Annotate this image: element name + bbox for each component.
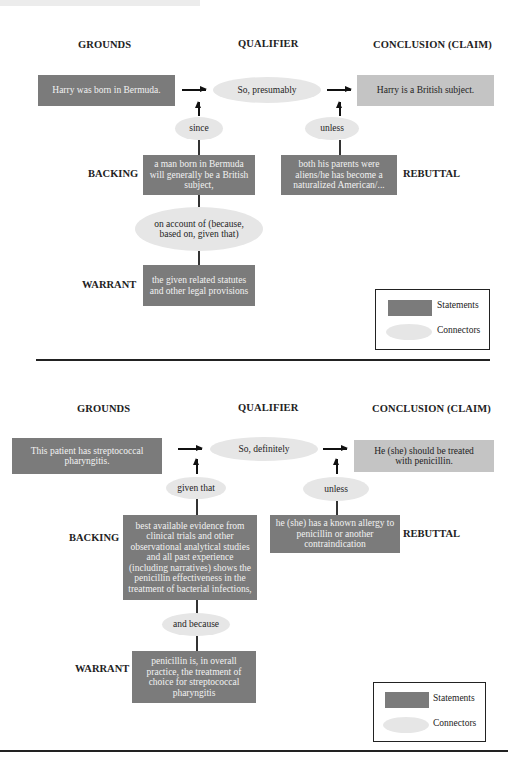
legend-statement-swatch (385, 692, 429, 708)
connector-line (198, 251, 200, 265)
backing-label: BACKING (88, 168, 138, 179)
header-conclusion: CONCLUSION (CLAIM) (373, 39, 492, 50)
connector-line (198, 140, 200, 155)
arrow-up-icon (196, 459, 198, 474)
page-header-faint (0, 0, 200, 6)
connector-line (339, 140, 341, 155)
legend-connector-swatch (383, 717, 429, 733)
connector-line (196, 499, 198, 515)
conclusion-statement: He (she) should be treated with penicill… (354, 440, 494, 472)
warrant-label: WARRANT (75, 663, 129, 674)
conclusion-statement: Harry is a British subject. (357, 75, 494, 106)
connector-line (196, 600, 198, 614)
rebuttal-label: REBUTTAL (403, 528, 460, 539)
warrant-connector: on account of (because, based on, given … (135, 207, 263, 251)
legend-connectors-label: Connectors (437, 325, 480, 335)
qualifier-connector: So, definitely (210, 437, 318, 461)
connector-line (336, 501, 338, 516)
legend: Statements Connectors (373, 682, 486, 742)
rebuttal-label: REBUTTAL (403, 168, 460, 179)
warrant-statement: penicillin is, in overall practice, the … (132, 651, 256, 703)
legend-statement-swatch (388, 300, 432, 316)
grounds-statement: Harry was born in Bermuda. (38, 75, 175, 106)
rebuttal-statement: he (she) has a known allergy to penicill… (270, 515, 400, 553)
warrant-label: WARRANT (82, 279, 136, 290)
backing-label: BACKING (69, 532, 119, 543)
header-grounds: GROUNDS (78, 39, 131, 50)
section-divider (36, 359, 490, 361)
arrow-up-icon (198, 102, 200, 116)
legend-statements-label: Statements (437, 300, 479, 310)
rebuttal-statement: both his parents were aliens/he has beco… (281, 155, 397, 195)
legend: Statements Connectors (375, 289, 490, 350)
arrow-up-icon (336, 459, 338, 474)
arrow-right-icon (323, 448, 347, 450)
warrant-statement: the given related statutes and other leg… (143, 265, 255, 306)
section-divider (0, 750, 508, 752)
connector-line (196, 636, 198, 651)
header-grounds: GROUNDS (77, 403, 130, 414)
arrow-up-icon (339, 102, 341, 116)
warrant-connector: and because (162, 613, 230, 636)
arrow-right-icon (327, 89, 351, 91)
arrow-right-icon (182, 89, 206, 91)
backing-connector: given that (166, 477, 226, 499)
header-qualifier: QUALIFIER (238, 402, 298, 413)
backing-connector: since (175, 117, 223, 140)
rebuttal-connector: unless (303, 477, 369, 501)
arrow-right-icon (178, 448, 202, 450)
legend-statements-label: Statements (433, 693, 475, 703)
header-qualifier: QUALIFIER (238, 38, 298, 49)
qualifier-connector: So, presumably (213, 77, 321, 103)
header-conclusion: CONCLUSION (CLAIM) (372, 403, 491, 414)
legend-connector-swatch (386, 324, 432, 340)
rebuttal-connector: unless (305, 117, 359, 140)
legend-connectors-label: Connectors (433, 718, 476, 728)
backing-statement: a man born in Bermuda will generally be … (143, 155, 255, 195)
grounds-statement: This patient has streptococcal pharyngit… (12, 438, 162, 474)
backing-statement: best available evidence from clinical tr… (123, 515, 257, 600)
